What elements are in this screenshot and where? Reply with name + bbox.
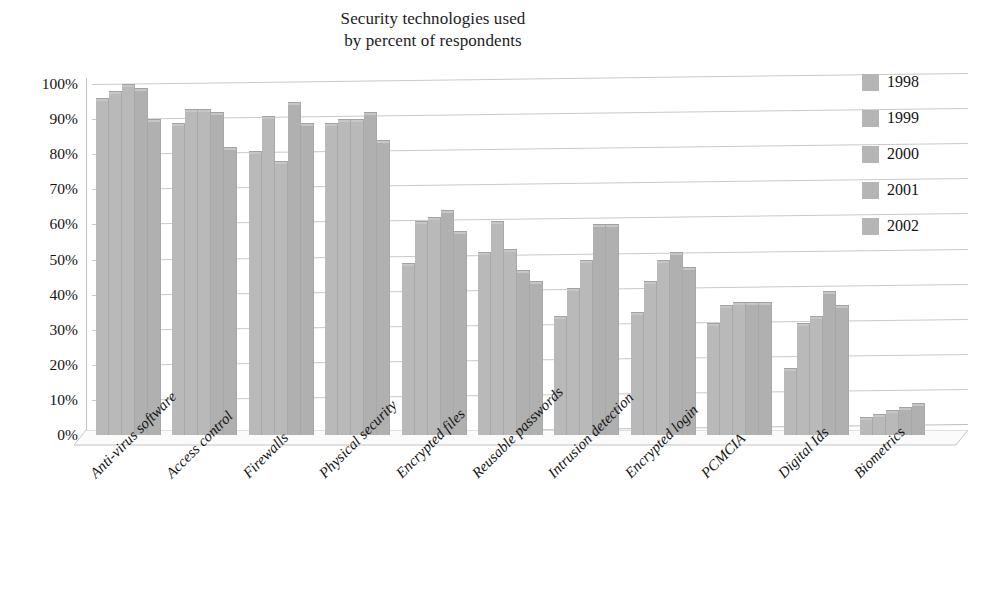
legend-swatch-icon xyxy=(862,218,879,235)
bar-2001-encrypted-files xyxy=(441,210,454,435)
bar-1999-pcmcia xyxy=(720,305,733,435)
bar-group xyxy=(402,84,472,435)
bar-1998-encrypted-files xyxy=(402,263,415,435)
legend-item-2001[interactable]: 2001 xyxy=(862,172,980,208)
bar-2002-anti-virus-software xyxy=(148,119,161,435)
bar-2000-firewalls xyxy=(275,161,288,435)
bar-group xyxy=(249,84,319,435)
bar-1999-encrypted-login xyxy=(644,281,657,435)
bar-1998-pcmcia xyxy=(707,323,720,435)
bar-2000-physical-security xyxy=(351,119,364,435)
bar-group xyxy=(707,84,777,435)
bar-1998-anti-virus-software xyxy=(96,98,109,435)
bar-1999-biometrics xyxy=(873,414,886,435)
bar-2000-intrusion-detection xyxy=(580,260,593,436)
bar-1998-intrusion-detection xyxy=(554,316,567,435)
bar-2001-physical-security xyxy=(364,112,377,435)
bar-2002-firewalls xyxy=(301,123,314,435)
bar-1999-digital-ids xyxy=(797,323,810,435)
bar-group xyxy=(172,84,242,435)
bar-2002-intrusion-detection xyxy=(606,224,619,435)
legend-item-2000[interactable]: 2000 xyxy=(862,136,980,172)
bar-1999-reusable-passwords xyxy=(491,221,504,435)
chart-plot-area: 100%90%80%70%60%50%40%30%20%10%0% Anti-v… xyxy=(0,0,984,604)
bar-1998-firewalls xyxy=(249,151,262,435)
bar-1999-intrusion-detection xyxy=(567,288,580,435)
legend-label: 1999 xyxy=(887,110,919,126)
bar-2000-biometrics xyxy=(886,410,899,435)
bar-2000-digital-ids xyxy=(810,316,823,435)
legend-swatch-icon xyxy=(862,146,879,163)
bar-1999-encrypted-files xyxy=(415,221,428,435)
bar-2002-biometrics xyxy=(912,403,925,435)
bar-2002-digital-ids xyxy=(836,305,849,435)
bar-2002-access-control xyxy=(224,147,237,435)
bar-1998-access-control xyxy=(172,123,185,435)
legend-label: 2000 xyxy=(887,146,919,162)
legend-item-2002[interactable]: 2002 xyxy=(862,208,980,244)
bar-2000-encrypted-login xyxy=(657,260,670,436)
legend-item-1999[interactable]: 1999 xyxy=(862,100,980,136)
bar-1999-firewalls xyxy=(262,116,275,435)
bar-2000-access-control xyxy=(198,109,211,435)
bar-group xyxy=(784,84,854,435)
bar-group xyxy=(96,84,166,435)
bar-2001-access-control xyxy=(211,112,224,435)
bar-2000-reusable-passwords xyxy=(504,249,517,435)
bar-2000-encrypted-files xyxy=(428,217,441,435)
bar-2001-reusable-passwords xyxy=(517,270,530,435)
bar-2001-anti-virus-software xyxy=(135,88,148,435)
bar-1998-physical-security xyxy=(325,123,338,435)
bar-group xyxy=(478,84,548,435)
legend-swatch-icon xyxy=(862,110,879,127)
bar-2001-firewalls xyxy=(288,102,301,435)
bar-1998-reusable-passwords xyxy=(478,252,491,435)
bar-2000-pcmcia xyxy=(733,302,746,435)
bar-1998-digital-ids xyxy=(784,368,797,435)
bar-1999-physical-security xyxy=(338,119,351,435)
bar-group xyxy=(631,84,701,435)
bar-2002-physical-security xyxy=(377,140,390,435)
bar-1999-anti-virus-software xyxy=(109,91,122,435)
bar-2002-reusable-passwords xyxy=(530,281,543,435)
bar-group xyxy=(554,84,624,435)
bar-1998-biometrics xyxy=(860,417,873,435)
legend-label: 2002 xyxy=(887,218,919,234)
bar-2000-anti-virus-software xyxy=(122,84,135,435)
bar-1998-encrypted-login xyxy=(631,312,644,435)
legend-item-1998[interactable]: 1998 xyxy=(862,64,980,100)
bar-2001-intrusion-detection xyxy=(593,224,606,435)
bar-2001-pcmcia xyxy=(746,302,759,435)
bar-1999-access-control xyxy=(185,109,198,435)
bar-2001-encrypted-login xyxy=(670,252,683,435)
legend-label: 2001 xyxy=(887,182,919,198)
bar-group xyxy=(325,84,395,435)
legend-label: 1998 xyxy=(887,74,919,90)
legend-swatch-icon xyxy=(862,182,879,199)
bar-2002-pcmcia xyxy=(759,302,772,435)
bar-2001-biometrics xyxy=(899,407,912,435)
chart-bars xyxy=(0,0,984,604)
bar-2002-encrypted-login xyxy=(683,267,696,435)
legend-swatch-icon xyxy=(862,74,879,91)
bar-2001-digital-ids xyxy=(823,291,836,435)
chart-legend: 19981999200020012002 xyxy=(862,64,980,244)
bar-2002-encrypted-files xyxy=(454,231,467,435)
